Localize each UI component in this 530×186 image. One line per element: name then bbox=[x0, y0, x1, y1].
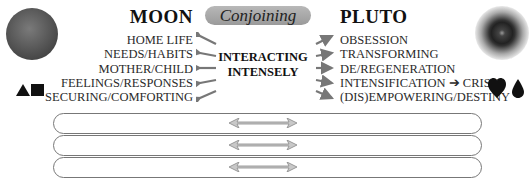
left-arrows-icon bbox=[196, 32, 220, 102]
pluto-keyword: (DIS)EMPOWERING/DESTINY bbox=[340, 90, 510, 104]
pluto-keyword: INTENSIFICATION ➔ CRISIS bbox=[340, 76, 510, 90]
moon-keyword: NEEDS/HABITS bbox=[45, 47, 193, 61]
right-arrows-icon bbox=[313, 32, 337, 102]
aspect-label: Conjoining bbox=[220, 6, 297, 25]
double-arrow-icon bbox=[229, 118, 297, 128]
moon-title: MOON bbox=[130, 6, 193, 28]
triangle-square-icon bbox=[16, 82, 46, 97]
moon-keyword: HOME LIFE bbox=[45, 33, 193, 47]
moon-keyword: SECURING/COMFORTING bbox=[45, 90, 193, 104]
pluto-keyword: DE/REGENERATION bbox=[340, 62, 510, 76]
pluto-keyword: TRANSFORMING bbox=[340, 47, 510, 61]
moon-keyword: FEELINGS/RESPONSES bbox=[45, 76, 193, 90]
double-arrow-icon bbox=[229, 140, 297, 150]
pluto-keyword-list: OBSESSION TRANSFORMING DE/REGENERATION I… bbox=[340, 33, 510, 104]
aspect-description: INTERACTING INTENSELY bbox=[218, 50, 308, 80]
aspect-description-line2: INTENSELY bbox=[218, 65, 308, 80]
heart-drop-icon bbox=[488, 78, 528, 100]
double-arrow-icon bbox=[229, 162, 297, 172]
pluto-title: PLUTO bbox=[340, 6, 408, 28]
aspect-pill: Conjoining bbox=[205, 6, 311, 25]
pluto-keyword: OBSESSION bbox=[340, 33, 510, 47]
moon-keyword-list: HOME LIFE NEEDS/HABITS MOTHER/CHILD FEEL… bbox=[45, 33, 193, 104]
moon-keyword: MOTHER/CHILD bbox=[45, 62, 193, 76]
aspect-description-line1: INTERACTING bbox=[218, 50, 308, 65]
